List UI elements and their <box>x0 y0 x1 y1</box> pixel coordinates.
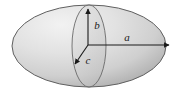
semi-axis-b-label: b <box>94 19 100 31</box>
ellipsoid-figure: a b c <box>0 0 180 94</box>
semi-axis-a-label: a <box>124 31 130 43</box>
ellipsoid-diagram-canvas: a b c <box>0 0 180 94</box>
semi-axis-c-label: c <box>86 54 91 66</box>
cross-section-ellipse <box>72 5 106 87</box>
